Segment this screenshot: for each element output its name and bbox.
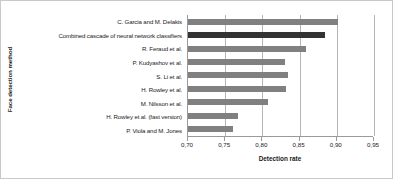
bar: [188, 59, 285, 65]
gridline: [374, 15, 375, 136]
y-axis-category-labels: C. Garcia and M. DelakisCombined cascade…: [19, 15, 185, 137]
category-label: H. Rowley et al.: [141, 86, 182, 93]
x-tick-label: 0,70: [181, 141, 193, 148]
bar-row: [188, 42, 373, 55]
plot-area: [187, 15, 373, 137]
category-label: P. Viola and M. Jones: [126, 127, 182, 134]
category-label-row: H. Rowley et al.: [19, 83, 185, 97]
y-axis-title: Face detection method: [3, 19, 17, 139]
category-label-row: M. Nilsson et al.: [19, 96, 185, 110]
category-label-row: C. Garcia and M. Delakis: [19, 15, 185, 29]
bar-row: [188, 69, 373, 82]
category-label-row: P. Viola and M. Jones: [19, 124, 185, 138]
category-label-row: P. Kudyashov et al.: [19, 56, 185, 70]
category-label-row: S. Li et al.: [19, 69, 185, 83]
category-label: P. Kudyashov et al.: [133, 59, 182, 66]
x-tick-label: 0,80: [255, 141, 267, 148]
bar-row: [188, 123, 373, 136]
category-label: Combined cascade of neural network class…: [58, 32, 182, 39]
category-label: C. Garcia and M. Delakis: [117, 18, 182, 25]
bar: [188, 99, 268, 105]
bar: [188, 86, 286, 92]
category-label-row: H. Rowley et al. (fast version): [19, 110, 185, 124]
bar: [188, 46, 306, 52]
y-axis-title-text: Face detection method: [7, 46, 14, 111]
bar-row: [188, 55, 373, 68]
category-label: M. Nilsson et al.: [141, 100, 182, 107]
bar-row: [188, 28, 373, 41]
category-label-row: Combined cascade of neural network class…: [19, 29, 185, 43]
bar-row: [188, 109, 373, 122]
x-axis-tick-labels: 0,700,750,800,850,900,95: [187, 141, 373, 153]
bar: [188, 113, 238, 119]
bar-row: [188, 82, 373, 95]
x-tick-label: 0,75: [218, 141, 230, 148]
bar-row: [188, 96, 373, 109]
bar: [188, 72, 288, 78]
category-label-row: R. Feraud et al.: [19, 42, 185, 56]
chart-figure: Face detection method C. Garcia and M. D…: [0, 0, 393, 179]
category-label: S. Li et al.: [156, 73, 182, 80]
bar-row: [188, 15, 373, 28]
x-tick-label: 0,90: [330, 141, 342, 148]
bar-series: [188, 15, 373, 136]
x-tick-label: 0,85: [293, 141, 305, 148]
bar: [188, 32, 325, 38]
bar: [188, 19, 338, 25]
category-label: R. Feraud et al.: [142, 45, 182, 52]
x-axis-title: Detection rate: [187, 155, 373, 162]
bar: [188, 126, 233, 132]
category-label: H. Rowley et al. (fast version): [106, 113, 182, 120]
x-tick-label: 0,95: [367, 141, 379, 148]
